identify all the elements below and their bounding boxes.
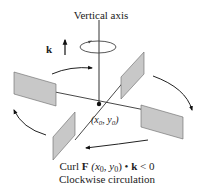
caption-curl-word: Curl: [59, 160, 81, 172]
caption-args-b: , y: [104, 160, 115, 172]
circulation-arrow-right: [153, 76, 192, 110]
curl-clockwise-diagram: Vertical axis k (x0, y0) Curl F (x0, y0)…: [0, 0, 206, 187]
axis-left-right: [55, 92, 145, 110]
caption-relation: < 0: [137, 160, 155, 172]
point-label-end: ): [114, 114, 119, 126]
k-vector-label: k: [46, 43, 53, 55]
vertical-axis-label: Vertical axis: [74, 9, 129, 21]
circulation-arrow-top: [52, 68, 92, 74]
rotation-ellipse-icon: [80, 41, 116, 53]
caption-args-a: (x: [89, 160, 100, 173]
axis-front-back: [75, 80, 125, 140]
point-label: (x0, y0): [91, 114, 119, 127]
panel-front: [53, 112, 75, 160]
caption-args-c: ) •: [118, 160, 131, 173]
panel-right: [141, 105, 183, 139]
panel-back-right: [121, 52, 144, 99]
circulation-arrow-left: [14, 110, 46, 135]
panel-left: [14, 72, 56, 106]
caption-clockwise: Clockwise circulation: [59, 173, 156, 185]
point-x0-y0: [97, 102, 101, 106]
circulation-arrow-bottom: [86, 140, 148, 148]
caption-curl-condition: Curl F (x0, y0) • k < 0: [59, 160, 155, 174]
